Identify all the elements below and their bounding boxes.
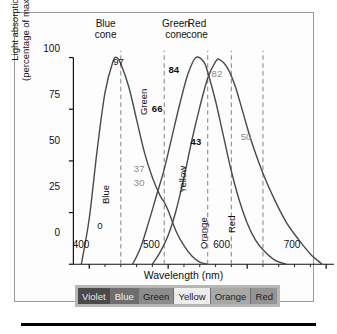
x-tick-label: 600 [207,239,237,250]
y-axis-title-line2: (percentage of maximum) [20,0,31,81]
y-tick-label: 25 [36,181,60,192]
x-tick-label: 700 [277,239,307,250]
value-annotation: 43 [191,136,202,147]
x-axis-title: Wavelength (nm) [15,269,337,281]
inline-color-label-yellow: Yellow [177,166,188,193]
curve [133,57,287,264]
value-annotation: 50 [241,131,252,142]
cone-label-line1: Blue [96,18,116,29]
value-annotation: 84 [169,64,180,75]
y-tick-label: 100 [36,43,60,54]
spectrum-segment-red: Red [251,288,277,304]
inline-color-label-green: Green [138,89,149,115]
y-axis-title-line1: Light absorption [9,0,20,61]
inline-color-label-red: Red [226,216,237,233]
x-tick-label: 500 [136,239,166,250]
y-tick-label: 50 [36,135,60,146]
figure-panel: Light absorption (percentage of maximum)… [14,12,314,302]
inline-color-label-orange: Orange [198,217,209,249]
cone-label-line2: cone [95,29,117,40]
x-tick-label: 400 [66,239,96,250]
spectrum-segment-orange: Orange [211,288,252,304]
cone-label-line1: Red [188,18,206,29]
spectrum-segment-violet: Violet [78,288,111,304]
y-tick-label: 0 [36,227,60,238]
y-tick-label: 75 [36,89,60,100]
y-axis-title: Light absorption (percentage of maximum) [9,0,31,81]
cone-label-red: Redcone [175,19,219,40]
value-annotation: 82 [212,68,223,79]
spectrum-segment-blue: Blue [111,288,139,304]
bottom-divider [21,323,316,326]
value-annotation: 30 [134,177,145,188]
value-annotation: 37 [134,163,145,174]
value-annotation: 0 [97,220,102,231]
value-annotation: 97 [113,56,124,67]
spectrum-segment-green: Green [139,288,175,304]
marker-lines [121,51,263,264]
cone-label-line2: cone [186,29,208,40]
inline-color-label-blue: Blue [100,185,111,204]
visible-spectrum-bar: VioletBlueGreenYellowOrangeRed [75,285,280,307]
value-annotation: 66 [152,103,163,114]
spectrum-segment-yellow: Yellow [174,288,210,304]
cone-label-blue: Bluecone [84,19,128,40]
